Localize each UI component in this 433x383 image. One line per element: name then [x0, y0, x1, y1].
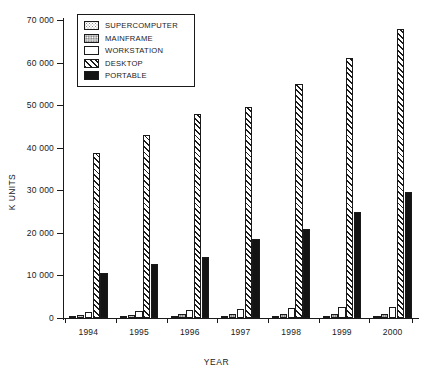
bar-desktop-1998[interactable] [295, 84, 302, 318]
legend-item-desktop[interactable]: DESKTOP [84, 58, 188, 69]
bar-mainframe-1996[interactable] [178, 314, 185, 318]
bar-group [373, 20, 411, 318]
chart-legend: SUPERCOMPUTER MAINFRAME WORKSTATION DESK… [77, 14, 195, 87]
bar-group [272, 20, 310, 318]
bar-supercomputer-1995[interactable] [120, 316, 127, 318]
bar-portable-1994[interactable] [100, 273, 107, 318]
y-axis-title: K UNITS [7, 173, 17, 209]
bar-group [323, 20, 361, 318]
bar-workstation-1996[interactable] [186, 310, 193, 318]
x-tick [412, 318, 413, 323]
bar-desktop-1997[interactable] [245, 107, 252, 318]
legend-item-portable[interactable]: PORTABLE [84, 70, 188, 81]
bar-mainframe-2000[interactable] [381, 314, 388, 318]
legend-item-mainframe[interactable]: MAINFRAME [84, 33, 188, 44]
x-tick-label: 1999 [332, 327, 352, 337]
bar-workstation-2000[interactable] [389, 307, 396, 318]
legend-swatch-mainframe-icon [84, 34, 99, 43]
bar-supercomputer-1994[interactable] [69, 316, 76, 318]
x-tick [369, 318, 370, 323]
bar-workstation-1999[interactable] [338, 307, 345, 318]
y-tick-label: 10 000 [27, 270, 54, 280]
x-tick [167, 318, 168, 323]
x-tick-label: 1997 [231, 327, 251, 337]
bar-desktop-2000[interactable] [397, 29, 404, 318]
legend-swatch-portable-icon [84, 71, 99, 80]
bar-desktop-1995[interactable] [143, 135, 150, 318]
bar-group [221, 20, 259, 318]
bar-workstation-1997[interactable] [237, 309, 244, 318]
bar-portable-2000[interactable] [405, 192, 412, 318]
bar-supercomputer-1997[interactable] [221, 316, 228, 318]
legend-swatch-supercomputer-icon [84, 21, 99, 30]
legend-item-supercomputer[interactable]: SUPERCOMPUTER [84, 20, 188, 31]
x-tick [319, 318, 320, 323]
bar-portable-1995[interactable] [151, 264, 158, 318]
y-tick [57, 318, 63, 319]
x-tick-label: 1995 [129, 327, 149, 337]
bar-workstation-1995[interactable] [135, 311, 142, 318]
legend-label-desktop: DESKTOP [105, 59, 143, 68]
bar-supercomputer-1998[interactable] [272, 316, 279, 318]
bar-mainframe-1998[interactable] [280, 314, 287, 318]
y-tick-label: 70 000 [27, 15, 54, 25]
y-tick-label: 30 000 [27, 185, 54, 195]
bar-portable-1998[interactable] [303, 229, 310, 318]
bar-mainframe-1994[interactable] [77, 315, 84, 318]
x-tick [217, 318, 218, 323]
legend-label-portable: PORTABLE [105, 71, 147, 80]
x-tick-label: 2000 [383, 327, 403, 337]
bar-supercomputer-2000[interactable] [373, 316, 380, 318]
bar-mainframe-1997[interactable] [229, 314, 236, 318]
legend-label-supercomputer: SUPERCOMPUTER [105, 21, 178, 30]
legend-label-mainframe: MAINFRAME [105, 34, 153, 43]
bar-portable-1996[interactable] [202, 257, 209, 318]
legend-item-workstation[interactable]: WORKSTATION [84, 45, 188, 56]
y-tick-label: 0 [49, 313, 54, 323]
bar-mainframe-1999[interactable] [331, 314, 338, 318]
bar-supercomputer-1999[interactable] [323, 316, 330, 318]
bar-mainframe-1995[interactable] [128, 315, 135, 318]
x-tick-label: 1994 [78, 327, 98, 337]
y-tick-label: 40 000 [27, 143, 54, 153]
x-tick-label: 1996 [180, 327, 200, 337]
bar-portable-1997[interactable] [252, 239, 259, 318]
y-tick-label: 50 000 [27, 100, 54, 110]
bar-desktop-1999[interactable] [346, 58, 353, 318]
legend-swatch-workstation-icon [84, 46, 99, 55]
bar-chart: K UNITS 010 00020 00030 00040 00050 0006… [0, 0, 433, 383]
bar-supercomputer-1996[interactable] [171, 316, 178, 318]
bar-desktop-1994[interactable] [93, 153, 100, 318]
x-tick [65, 318, 66, 323]
bar-desktop-1996[interactable] [194, 114, 201, 318]
bar-portable-1999[interactable] [354, 212, 361, 318]
bar-workstation-1994[interactable] [85, 312, 92, 318]
bar-workstation-1998[interactable] [288, 308, 295, 318]
x-tick-label: 1998 [281, 327, 301, 337]
y-tick-label: 20 000 [27, 228, 54, 238]
x-axis-title: YEAR [0, 357, 433, 367]
legend-swatch-desktop-icon [84, 59, 99, 68]
y-tick-label: 60 000 [27, 58, 54, 68]
x-tick [268, 318, 269, 323]
x-tick [116, 318, 117, 323]
legend-label-workstation: WORKSTATION [105, 46, 163, 55]
